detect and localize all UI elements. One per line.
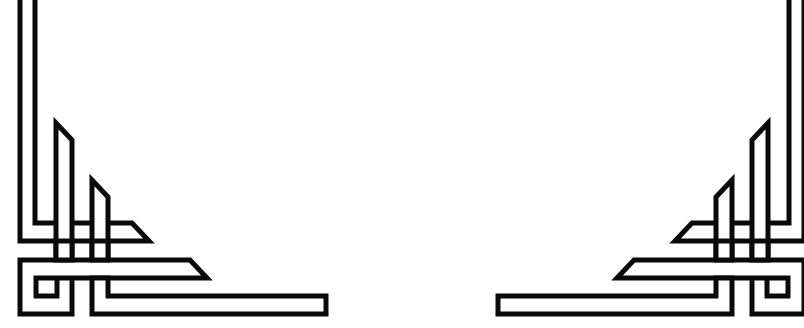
corner-ornaments bbox=[0, 0, 804, 328]
ornament-canvas bbox=[0, 0, 804, 328]
left-corner-ornament bbox=[20, 0, 326, 314]
right-corner-ornament bbox=[498, 0, 804, 314]
